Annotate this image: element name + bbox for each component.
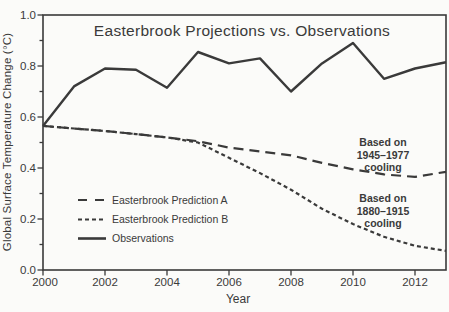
annotation-line: 1945–1977 — [357, 149, 410, 161]
legend-label-observations: Observations — [112, 232, 174, 244]
x-tick-label-6: 2012 — [402, 276, 428, 288]
legend-item-prediction-a: Easterbrook Prediction A — [78, 194, 228, 206]
chart-title: Easterbrook Projections vs. Observations — [94, 22, 390, 39]
chart-figure: Easterbrook Projections vs. Observations… — [0, 0, 449, 312]
annotation-line: 1880–1915 — [357, 205, 410, 217]
legend-label-prediction-a: Easterbrook Prediction A — [112, 194, 228, 206]
y-tick-label-2: 0.4 — [20, 162, 37, 174]
x-tick-label-5: 2010 — [340, 276, 366, 288]
legend-item-observations: Observations — [78, 232, 174, 244]
chart-canvas: Easterbrook Projections vs. Observations… — [0, 0, 449, 312]
y-tick-label-3: 0.6 — [20, 111, 36, 123]
x-tick-label-1: 2002 — [92, 276, 118, 288]
y-axis-label: Global Surface Temperature Change (°C) — [1, 33, 13, 251]
y-tick-label-4: 0.8 — [20, 60, 36, 72]
x-tick-label-2: 2004 — [154, 276, 180, 288]
x-tick-label-0: 2000 — [32, 276, 58, 288]
y-tick-label-0: 0.0 — [20, 264, 36, 276]
x-tick-label-3: 2006 — [216, 276, 242, 288]
annotation-line: cooling — [364, 161, 401, 173]
annotation-line: Based on — [359, 136, 406, 148]
legend-item-prediction-b: Easterbrook Prediction B — [78, 213, 228, 225]
y-axis-tick-labels: 0.0 0.2 0.4 0.6 0.8 1.0 — [20, 9, 37, 276]
x-axis-tick-labels: 2000 2002 2004 2006 2008 2010 2012 — [32, 276, 428, 288]
y-tick-label-5: 1.0 — [20, 9, 36, 21]
annotation-1880-1915-cooling: Based on 1880–1915 cooling — [357, 192, 410, 229]
observations-line — [43, 43, 446, 126]
x-tick-label-4: 2008 — [278, 276, 304, 288]
annotation-line: Based on — [359, 192, 406, 204]
legend: Easterbrook Prediction A Easterbrook Pre… — [78, 194, 228, 245]
annotation-1945-1977-cooling: Based on 1945–1977 cooling — [357, 136, 410, 173]
x-axis-ticks — [43, 270, 415, 276]
x-axis-label: Year — [226, 292, 250, 306]
y-tick-label-1: 0.2 — [20, 213, 36, 225]
legend-label-prediction-b: Easterbrook Prediction B — [112, 213, 228, 225]
annotation-line: cooling — [364, 217, 401, 229]
